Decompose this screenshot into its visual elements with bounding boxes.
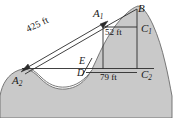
point-label-A1: A1 bbox=[93, 8, 103, 21]
figure-drawing bbox=[0, 0, 173, 118]
point-label-B: B bbox=[138, 3, 145, 16]
dimension-label-79ft: 79 ft bbox=[100, 73, 117, 82]
point-label-C2: C2 bbox=[141, 69, 152, 82]
dimension-label-52ft: 52 ft bbox=[105, 28, 122, 37]
point-label-E: E bbox=[79, 56, 85, 67]
figure-container: A1 A2 B C1 C2 D E 425 ft 52 ft 79 ft bbox=[0, 0, 173, 118]
point-label-C1: C1 bbox=[141, 23, 152, 36]
point-label-D: D bbox=[77, 68, 84, 79]
point-label-A2: A2 bbox=[12, 75, 22, 88]
